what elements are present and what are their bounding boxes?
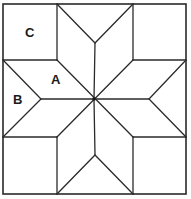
label-b: B <box>13 93 22 106</box>
center-point <box>92 97 96 101</box>
label-c: C <box>25 26 34 39</box>
label-a: A <box>51 73 60 86</box>
